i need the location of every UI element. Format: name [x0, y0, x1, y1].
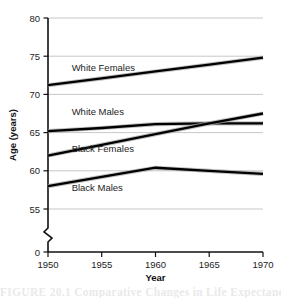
- x-tick-label-1965: 1965: [199, 259, 220, 270]
- series-label-black-males: Black Males: [72, 182, 123, 193]
- x-axis-title: Year: [145, 272, 165, 283]
- x-tick-label-1970: 1970: [252, 259, 273, 270]
- x-tick-label-1960: 1960: [145, 259, 166, 270]
- y-tick-label-65: 65: [29, 127, 40, 138]
- x-tick-label-1950: 1950: [37, 259, 58, 270]
- figure-caption: FIGURE 20.1 Comparative Changes in Life …: [0, 286, 281, 298]
- y-tick-label-zero: 0: [35, 247, 40, 258]
- y-tick-label-70: 70: [29, 89, 40, 100]
- series-label-white-females: White Females: [72, 62, 136, 73]
- x-tick-label-1955: 1955: [91, 259, 112, 270]
- y-axis-title: Age (years): [7, 109, 18, 161]
- y-tick-label-75: 75: [29, 51, 40, 62]
- series-label-black-females: Black Females: [72, 143, 135, 154]
- y-tick-label-60: 60: [29, 165, 40, 176]
- y-tick-label-55: 55: [29, 204, 40, 215]
- y-tick-label-80: 80: [29, 13, 40, 24]
- series-label-white-males: White Males: [72, 106, 125, 117]
